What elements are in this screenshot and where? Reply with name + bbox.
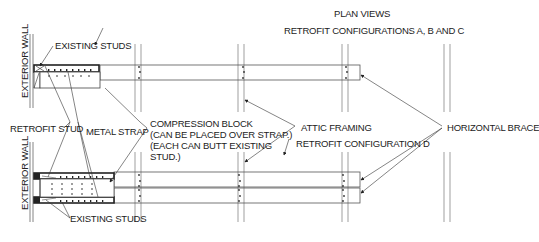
label-horizontal-brace: HORIZONTAL BRACE bbox=[447, 122, 539, 133]
label-existing-studs-top: EXISTING STUDS bbox=[55, 40, 131, 51]
label-compression-block-3: (EACH CAN BUTT EXISTING bbox=[150, 140, 272, 151]
label-exterior-wall-top: EXTERIOR WALL bbox=[19, 24, 30, 98]
exterior-wall-top bbox=[30, 34, 33, 108]
label-exterior-wall-bottom: EXTERIOR WALL bbox=[19, 136, 30, 210]
label-compression-block-2: (CAN BE PLACED OVER STRAP.) bbox=[150, 129, 292, 140]
title-plan-views: PLAN VIEWS bbox=[334, 8, 390, 19]
caption-config-abc: RETROFIT CONFIGURATIONS A, B AND C bbox=[284, 25, 464, 36]
label-attic-framing: ATTIC FRAMING bbox=[301, 122, 372, 133]
label-compression-block-4: STUD.) bbox=[150, 151, 180, 162]
retrofit-assembly-bottom bbox=[34, 173, 114, 203]
label-existing-studs-bottom: EXISTING STUDS bbox=[70, 213, 146, 224]
retrofit-assembly-top bbox=[34, 65, 100, 88]
caption-config-d: RETROFIT CONFIGURATION D bbox=[296, 138, 430, 149]
exterior-wall-bottom bbox=[30, 142, 33, 222]
label-retrofit-stud: RETROFIT STUD bbox=[10, 123, 83, 134]
label-metal-strap: METAL STRAP bbox=[86, 126, 149, 137]
horizontal-brace-bottom bbox=[114, 172, 360, 203]
label-compression-block-1: COMPRESSION BLOCK bbox=[150, 118, 253, 129]
